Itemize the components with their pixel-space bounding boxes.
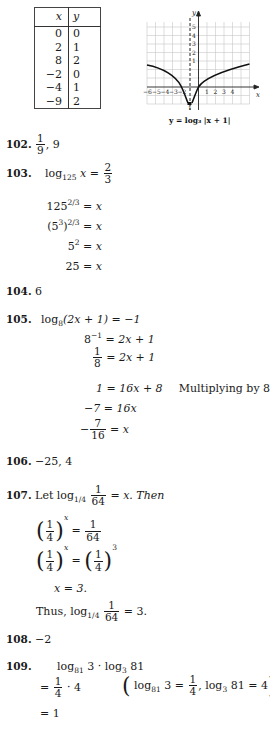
rhs: = x — [83, 260, 102, 273]
step-3: (14)x = (14)3 — [36, 548, 117, 573]
problem-number: 107. — [6, 489, 32, 501]
numerator: 1 — [85, 519, 100, 531]
intro: Let log — [35, 489, 74, 502]
problem-number: 109. — [6, 660, 32, 672]
base: 81 — [74, 666, 84, 675]
rhs: = x — [83, 240, 102, 253]
log-graph: −6−5−4 −3−2 1234 543 211 x y y = log₃ |x… — [143, 6, 270, 126]
paren: ) — [268, 673, 270, 698]
step-3: 18 = 2x + 1 — [92, 346, 155, 369]
table-row: −41 — [35, 81, 101, 95]
denominator: 4 — [54, 688, 63, 699]
fraction: 14 — [189, 674, 198, 697]
step-2: = 14 · 4 — [40, 676, 81, 699]
base: 81 — [151, 685, 161, 694]
exp: 2/3 — [68, 198, 80, 207]
step-2: (14)x = 164 — [36, 518, 102, 543]
problem-106: 106. −25, 4 — [6, 455, 72, 468]
table-row: 21 — [35, 41, 101, 55]
step-4: 52 = x — [30, 240, 102, 253]
paren: ( — [84, 548, 93, 573]
step-1: log125 x = 23 — [45, 167, 113, 180]
annotation: Multiplying by 8 — [179, 382, 270, 395]
paren: ) — [104, 548, 113, 573]
paren: ( — [122, 673, 131, 698]
denominator: 64 — [85, 532, 100, 543]
fraction: 14 — [94, 549, 103, 572]
cell: 2 — [69, 95, 101, 109]
rhs: = x — [83, 200, 102, 213]
exp: 2/3 — [68, 218, 80, 227]
denominator: 3 — [104, 174, 113, 185]
lhs: (5 — [47, 220, 58, 233]
problem-102: 102. 19, 9 — [6, 133, 60, 156]
svg-text:1: 1 — [192, 57, 196, 64]
conclusion: Thus, log — [36, 605, 87, 618]
note-mid: 3 = — [161, 679, 184, 692]
eq: = — [90, 167, 99, 180]
cell: −9 — [35, 95, 69, 109]
cell: −2 — [35, 68, 69, 82]
answer: −25, 4 — [35, 455, 72, 468]
paren: ) — [55, 518, 64, 543]
lhs: 8 — [84, 333, 91, 346]
cell: 0 — [69, 27, 101, 41]
paren: ( — [36, 518, 45, 543]
step-1: log8(2x + 1) = −1 — [41, 313, 140, 326]
svg-text:4: 4 — [192, 32, 196, 39]
log: log — [45, 167, 62, 180]
denominator: 8 — [93, 358, 102, 369]
fraction: 716 — [90, 418, 105, 441]
header-y: y — [69, 8, 101, 27]
problem-107: 107. Let log1/4 164 = x. Then — [6, 484, 164, 507]
svg-text:3: 3 — [222, 88, 226, 95]
svg-text:1: 1 — [188, 104, 192, 111]
answer: −2 — [35, 633, 51, 646]
answer: 6 — [35, 285, 42, 298]
cell: 0 — [35, 27, 69, 41]
step-3: = 1 — [40, 707, 60, 720]
problem-number: 105. — [6, 313, 32, 325]
table-row: 00 — [35, 27, 101, 41]
denominator: 64 — [91, 496, 106, 507]
mid: 3 · log — [84, 660, 122, 673]
var: x — [80, 167, 86, 180]
cell: 0 — [69, 68, 101, 82]
cell: 1 — [69, 41, 101, 55]
problem-105: 105. log8(2x + 1) = −1 — [6, 313, 140, 326]
answer-rest: , 9 — [46, 138, 60, 151]
denominator: 4 — [46, 532, 55, 543]
step-2: 1252/3 = x — [30, 200, 102, 213]
step-1: log81 3 · log3 81 — [57, 660, 144, 673]
svg-text:5: 5 — [192, 23, 196, 30]
svg-text:1: 1 — [205, 88, 209, 95]
svg-text:x: x — [256, 91, 260, 99]
step-3: (53)2/3 = x — [30, 220, 102, 233]
denominator: 4 — [189, 686, 198, 697]
sign: − — [80, 423, 89, 436]
result: = 1 — [40, 707, 60, 720]
rhs: = 2x + 1 — [106, 351, 155, 364]
step-2-note: ( log81 3 = 14, log3 81 = 4) — [122, 674, 270, 697]
denominator: 64 — [104, 612, 119, 623]
step-4: x = 3. — [54, 582, 87, 595]
paren: ) — [55, 548, 64, 573]
fraction: 164 — [85, 519, 100, 542]
fraction: 14 — [46, 519, 55, 542]
denominator: 4 — [46, 562, 55, 573]
cell: 2 — [35, 41, 69, 55]
base: 1/4 — [74, 495, 86, 504]
table-row: −20 — [35, 68, 101, 82]
header-x: x — [35, 8, 69, 27]
cell: 1 — [69, 81, 101, 95]
problem-number: 106. — [6, 455, 32, 467]
exp: x — [64, 513, 68, 522]
exp: 2 — [75, 238, 80, 247]
fraction: 23 — [104, 162, 113, 185]
step-5: Thus, log1/4 164 = 3. — [36, 600, 147, 623]
exp: 3 — [112, 543, 117, 552]
base: 125 — [62, 173, 76, 182]
base: 1/4 — [87, 611, 99, 620]
equation: 1 = 16x + 8 — [96, 382, 163, 395]
problem-number: 103. — [6, 167, 32, 179]
